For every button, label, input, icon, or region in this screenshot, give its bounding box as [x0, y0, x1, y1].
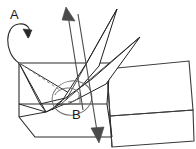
fold-diagram-svg [0, 0, 196, 149]
inner-flap-crease-b [19, 112, 46, 117]
rotation-arrow-a-head [23, 29, 32, 38]
inner-flap-crease-c [19, 63, 46, 112]
rotation-label-a: A [10, 8, 19, 21]
dashed-fold-group [19, 63, 60, 90]
rotation-label-b: B [72, 108, 81, 121]
dashed-fold-line [19, 63, 60, 90]
right-panel-group [107, 61, 194, 147]
right-panel-top-outline [107, 61, 193, 116]
diagram-canvas: A B [0, 0, 196, 149]
motion-arrow-down-head [91, 127, 104, 143]
motion-arrow-up-head [62, 7, 75, 21]
right-panel-bottom-outline [110, 110, 194, 147]
